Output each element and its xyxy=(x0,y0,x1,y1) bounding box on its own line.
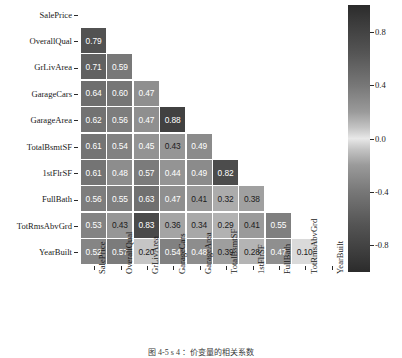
colorbar-tick xyxy=(370,139,374,140)
heatmap-cell: 0.63 xyxy=(134,186,159,211)
heatmap-cell: 0.64 xyxy=(81,81,106,106)
x-axis-tick xyxy=(279,266,280,270)
y-axis-tick xyxy=(74,41,78,42)
heatmap-cell: 0.71 xyxy=(81,54,106,79)
y-axis-tick xyxy=(74,173,78,174)
heatmap-cell: 0.47 xyxy=(134,107,159,132)
x-axis-label-totrmsabvgrd: TotRmsAbvGrd xyxy=(309,219,319,274)
y-axis-tick xyxy=(74,200,78,201)
heatmap-cell: 0.41 xyxy=(187,186,212,211)
heatmap-cell: 0.38 xyxy=(239,186,264,211)
heatmap-cell: 0.47 xyxy=(134,81,159,106)
colorbar-tick xyxy=(370,245,374,246)
heatmap-cell: 0.44 xyxy=(160,160,185,185)
y-axis-label-1stflrsf: 1stFlrSF xyxy=(42,160,72,186)
heatmap-cell: 0.61 xyxy=(81,134,106,159)
colorbar-tick-label: 0.4 xyxy=(375,81,386,90)
y-axis-label-saleprice: SalePrice xyxy=(40,2,72,28)
heatmap-grid: 0.790.710.590.640.600.470.620.560.470.88… xyxy=(81,2,319,266)
x-axis-label-overallqual: OverallQual xyxy=(124,232,134,274)
heatmap-cell: 0.61 xyxy=(81,160,106,185)
x-axis-label-totalbsmtsf: TotalBsmtSF xyxy=(229,229,239,274)
y-axis-label-totalbsmtsf: TotalBsmtSF xyxy=(27,134,72,160)
heatmap-cell: 0.54 xyxy=(107,134,132,159)
heatmap-cell: 0.43 xyxy=(160,134,185,159)
heatmap-cell: 0.56 xyxy=(107,107,132,132)
x-axis-tick xyxy=(173,266,174,270)
heatmap-cell: 0.32 xyxy=(213,186,238,211)
colorbar-tick xyxy=(370,85,374,86)
heatmap-cell: 0.56 xyxy=(81,186,106,211)
x-axis-label-grlivarea: GrLivArea xyxy=(150,236,160,274)
colorbar-tick-label: -0.8 xyxy=(375,241,389,250)
figure-caption: 图 4-5 s 4 ：价变量的相关系数 xyxy=(0,346,402,358)
colorbar-tick xyxy=(370,32,374,33)
heatmap-cell: 0.60 xyxy=(107,81,132,106)
y-axis-label-garagecars: GarageCars xyxy=(31,81,72,107)
x-axis-tick xyxy=(200,266,201,270)
heatmap-cell: 0.62 xyxy=(81,107,106,132)
x-axis-label-1stflrsf: 1stFlrSF xyxy=(256,244,266,274)
colorbar-tick-label: 0.0 xyxy=(375,134,386,143)
x-axis-label-yearbuilt: YearBuilt xyxy=(335,241,345,274)
heatmap-cell: 0.55 xyxy=(107,186,132,211)
heatmap-cell: 0.83 xyxy=(134,213,159,238)
heatmap-cell: 0.59 xyxy=(107,54,132,79)
y-axis-label-garagearea: GarageArea xyxy=(30,107,72,133)
x-axis-label-garagearea: GarageArea xyxy=(203,232,213,274)
x-axis-label-group: SalePriceOverallQualGrLivAreaGarageCarsG… xyxy=(81,266,331,346)
y-axis-tick xyxy=(74,147,78,148)
heatmap-cell: 0.45 xyxy=(134,134,159,159)
heatmap-cell: 0.53 xyxy=(81,213,106,238)
y-axis-label-overallqual: OverallQual xyxy=(30,28,72,54)
heatmap-cell: 0.79 xyxy=(81,28,106,53)
heatmap-cell: 0.49 xyxy=(187,134,212,159)
x-axis-tick xyxy=(253,266,254,270)
heatmap-cell: 0.55 xyxy=(266,213,291,238)
y-axis-tick xyxy=(74,252,78,253)
y-axis-label-fullbath: FullBath xyxy=(42,186,72,212)
heatmap-cell: 0.48 xyxy=(107,160,132,185)
heatmap-cell: 0.57 xyxy=(134,160,159,185)
y-axis-tick xyxy=(74,15,78,16)
y-axis-label-grlivarea: GrLivArea xyxy=(34,54,72,80)
colorbar-gradient xyxy=(348,5,370,272)
heatmap-cell: 0.88 xyxy=(160,107,185,132)
correlation-heatmap-figure: SalePriceOverallQualGrLivAreaGarageCarsG… xyxy=(0,0,402,358)
y-axis-tick xyxy=(74,120,78,121)
y-axis-label-yearbuilt: YearBuilt xyxy=(39,239,72,265)
x-axis-tick xyxy=(332,266,333,270)
x-axis-tick xyxy=(147,266,148,270)
colorbar-tick xyxy=(370,192,374,193)
x-axis-label-saleprice: SalePrice xyxy=(97,242,107,274)
heatmap-cell: 0.49 xyxy=(187,160,212,185)
y-axis-label-group: SalePriceOverallQualGrLivAreaGarageCarsG… xyxy=(0,0,78,300)
x-axis-tick xyxy=(226,266,227,270)
x-axis-label-fullbath: FullBath xyxy=(282,244,292,274)
y-axis-tick xyxy=(74,226,78,227)
heatmap-cell: 0.82 xyxy=(213,160,238,185)
colorbar: 0.80.40.0-0.4-0.8 xyxy=(348,5,370,272)
colorbar-tick-label: -0.4 xyxy=(375,188,389,197)
y-axis-label-totrmsabvgrd: TotRmsAbvGrd xyxy=(17,213,72,239)
heatmap-cell: 0.47 xyxy=(160,186,185,211)
x-axis-tick xyxy=(305,266,306,270)
heatmap-cell: 0.41 xyxy=(239,213,264,238)
x-axis-tick xyxy=(121,266,122,270)
x-axis-tick xyxy=(94,266,95,270)
colorbar-tick-label: 0.8 xyxy=(375,27,386,36)
y-axis-tick xyxy=(74,94,78,95)
x-axis-label-garagecars: GarageCars xyxy=(177,233,187,274)
y-axis-tick xyxy=(74,68,78,69)
